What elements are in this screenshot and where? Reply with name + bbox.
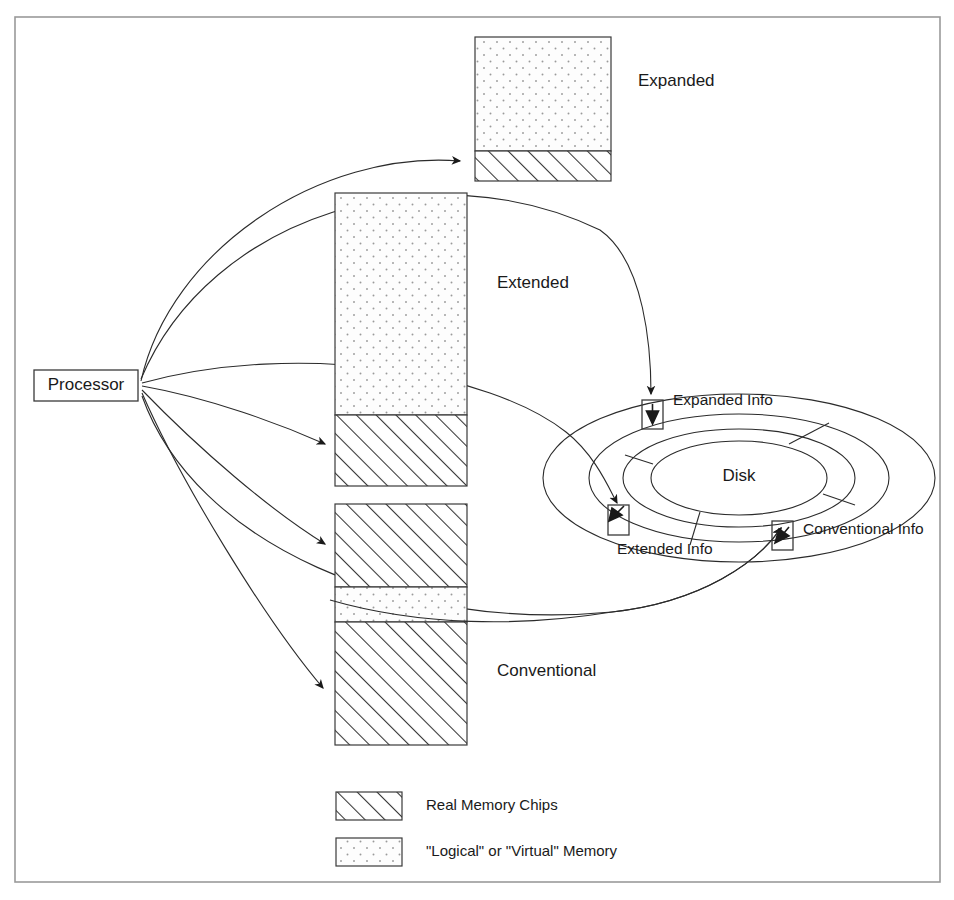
- extended-info-label: Extended Info: [617, 540, 713, 557]
- conventional-info-label: Conventional Info: [803, 520, 924, 537]
- disk-sector-line-1: [789, 423, 829, 444]
- memory-block-extended: Extended: [335, 193, 569, 486]
- legend-item-real-memory-chips: Real Memory Chips: [336, 792, 558, 820]
- conventional-virtual-segment: [335, 587, 467, 622]
- legend-item-logical-virtual-memory: "Logical" or "Virtual" Memory: [336, 838, 618, 866]
- disk-label: Disk: [722, 466, 756, 485]
- connector-processor-to-extended-chips: [142, 386, 325, 444]
- legend-label-real-memory-chips: Real Memory Chips: [426, 796, 558, 813]
- extended-virtual-segment: [335, 193, 467, 415]
- expanded-info-arrow-icon: [647, 404, 659, 424]
- expanded-real-segment: [475, 151, 611, 181]
- extended-block-label: Extended: [497, 273, 569, 292]
- memory-architecture-diagram: Disk Expanded Info Extended Info Convent…: [0, 0, 954, 900]
- processor-node[interactable]: Processor: [34, 370, 138, 401]
- conventional-real-segment-lower: [335, 622, 467, 745]
- memory-block-conventional: Conventional: [335, 504, 596, 745]
- legend: Real Memory Chips "Logical" or "Virtual"…: [336, 792, 618, 866]
- diagram-canvas: Disk Expanded Info Extended Info Convent…: [0, 0, 954, 900]
- expanded-info-label: Expanded Info: [673, 391, 773, 408]
- expanded-virtual-segment: [475, 37, 611, 151]
- conventional-real-segment-upper: [335, 504, 467, 587]
- legend-swatch-dotted: [336, 838, 402, 866]
- extended-real-segment: [335, 415, 467, 486]
- extended-info-arrow-icon: [609, 506, 624, 521]
- memory-block-expanded: Expanded: [475, 37, 715, 181]
- conventional-info-arrow-icon: [775, 527, 789, 543]
- processor-label: Processor: [48, 375, 125, 394]
- connector-processor-to-conventional-chips-lower: [142, 393, 323, 688]
- disk-marker-conventional-info[interactable]: Conventional Info: [772, 520, 924, 550]
- disk-marker-extended-info[interactable]: Extended Info: [608, 505, 713, 557]
- expanded-block-label: Expanded: [638, 71, 715, 90]
- conventional-block-label: Conventional: [497, 661, 596, 680]
- connector-processor-to-conventional-chips-upper: [142, 390, 325, 544]
- legend-label-logical-virtual-memory: "Logical" or "Virtual" Memory: [426, 842, 618, 859]
- legend-swatch-hatched: [336, 792, 402, 820]
